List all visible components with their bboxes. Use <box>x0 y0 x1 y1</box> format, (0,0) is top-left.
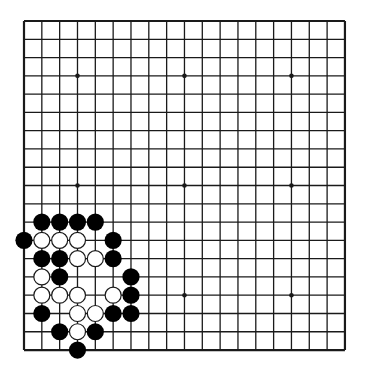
black-stone <box>69 213 86 230</box>
black-stone <box>69 341 86 358</box>
star-point <box>289 293 294 298</box>
black-stone <box>33 213 50 230</box>
white-stone <box>52 287 68 303</box>
black-stone <box>122 268 139 285</box>
black-stone <box>15 232 32 249</box>
black-stone <box>51 323 68 340</box>
star-point <box>182 293 187 298</box>
white-stone <box>34 232 50 248</box>
star-point <box>289 183 294 188</box>
star-point <box>182 74 187 79</box>
white-stone <box>34 287 50 303</box>
white-stone <box>69 305 85 321</box>
black-stone <box>87 213 104 230</box>
star-point <box>75 183 80 188</box>
white-stone <box>69 232 85 248</box>
black-stone <box>105 232 122 249</box>
white-stone <box>69 324 85 340</box>
white-stone <box>87 305 103 321</box>
black-stone <box>51 213 68 230</box>
star-point <box>182 183 187 188</box>
black-stone <box>33 305 50 322</box>
white-stone <box>87 251 103 267</box>
go-board[interactable] <box>0 0 366 375</box>
white-stone <box>105 287 121 303</box>
star-point <box>75 74 80 79</box>
black-stone <box>122 287 139 304</box>
black-stone <box>122 305 139 322</box>
white-stone <box>34 269 50 285</box>
white-stone <box>69 251 85 267</box>
black-stone <box>105 250 122 267</box>
white-stone <box>52 232 68 248</box>
black-stone <box>51 268 68 285</box>
black-stone <box>51 250 68 267</box>
star-point <box>289 74 294 79</box>
black-stone <box>33 250 50 267</box>
black-stone <box>87 323 104 340</box>
white-stone <box>69 287 85 303</box>
black-stone <box>105 305 122 322</box>
